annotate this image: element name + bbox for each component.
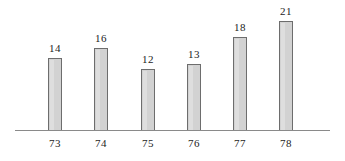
bar-78	[279, 21, 293, 130]
x-tick-label: 74	[86, 138, 116, 149]
x-tick-label: 73	[40, 138, 70, 149]
x-tick-label: 78	[271, 138, 301, 149]
bar-76	[187, 64, 201, 130]
bar-value-label: 14	[40, 43, 70, 54]
x-tick-label: 77	[225, 138, 255, 149]
bar-77	[233, 37, 247, 130]
bar-73	[48, 58, 62, 130]
x-axis-line	[15, 130, 330, 131]
x-tick-label: 76	[179, 138, 209, 149]
bar-highlight	[235, 39, 239, 130]
bar-74	[94, 48, 108, 130]
bar-highlight	[189, 66, 193, 130]
bar-highlight	[96, 50, 100, 130]
bar-value-label: 18	[225, 22, 255, 33]
x-tick-label: 75	[133, 138, 163, 149]
bar-chart: 14 73 16 74 12 75 13 76 18 77 21 78	[0, 0, 345, 161]
bar-highlight	[50, 60, 54, 130]
bar-75	[141, 69, 155, 130]
bar-highlight	[281, 23, 285, 130]
bar-highlight	[143, 71, 147, 130]
bar-value-label: 12	[133, 54, 163, 65]
bar-value-label: 21	[271, 6, 301, 17]
plot-area: 14 73 16 74 12 75 13 76 18 77 21 78	[0, 0, 345, 161]
bar-value-label: 13	[179, 49, 209, 60]
bar-value-label: 16	[86, 33, 116, 44]
